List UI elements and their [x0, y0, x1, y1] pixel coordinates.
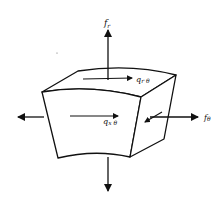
block-front-face [42, 89, 141, 158]
label-fr: fr [103, 18, 111, 29]
speck-dot [56, 52, 57, 53]
label-qxtheta: qx θ [103, 117, 117, 126]
label-ftheta: fθ [203, 113, 211, 122]
shell-element-diagram: fr qr θ qx θ fθ [0, 0, 224, 207]
label-qrtheta: qr θ [136, 75, 150, 84]
curved-block [42, 68, 176, 158]
